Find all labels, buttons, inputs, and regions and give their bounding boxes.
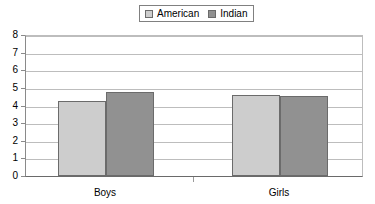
y-tick-label-0: 0 xyxy=(12,171,18,181)
legend-label-american: American xyxy=(157,9,199,19)
y-axis: 8 7 6 5 4 3 2 1 0 xyxy=(0,35,25,177)
y-tick-label-7: 7 xyxy=(12,48,18,58)
bar-boys-indian[interactable] xyxy=(106,92,154,176)
bar-girls-indian[interactable] xyxy=(280,96,328,176)
x-major-tick-mid xyxy=(193,177,194,182)
bar-boys-american[interactable] xyxy=(58,101,106,176)
y-tick-label-8: 8 xyxy=(12,30,18,40)
y-tick-label-3: 3 xyxy=(12,118,18,128)
legend-entry-indian: Indian xyxy=(208,9,247,19)
y-tick-label-1: 1 xyxy=(12,153,18,163)
legend-label-indian: Indian xyxy=(220,9,247,19)
x-cat-label-boys: Boys xyxy=(94,187,116,198)
y-tick-label-6: 6 xyxy=(12,65,18,75)
y-tick-label-5: 5 xyxy=(12,83,18,93)
x-axis: Boys Girls xyxy=(25,177,363,204)
legend-swatch-indian-icon xyxy=(208,10,216,18)
x-cat-label-girls: Girls xyxy=(269,187,290,198)
bars-layer xyxy=(26,36,362,176)
chart-legend: American Indian xyxy=(139,5,254,22)
y-tick-label-2: 2 xyxy=(12,136,18,146)
plot-area xyxy=(25,35,363,177)
bar-girls-american[interactable] xyxy=(232,95,280,176)
y-tick-label-4: 4 xyxy=(12,101,18,111)
bar-chart: American Indian 8 7 6 5 4 3 2 1 0 xyxy=(0,0,375,204)
legend-swatch-american-icon xyxy=(145,10,153,18)
legend-entry-american: American xyxy=(145,9,199,19)
